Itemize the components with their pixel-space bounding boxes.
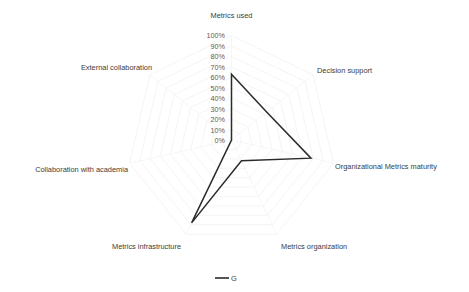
- axis-label-external-collaboration: External collaboration: [81, 63, 152, 72]
- axis-label-metrics-infrastructure: Metrics infrastructure: [112, 242, 181, 251]
- tick-label-80: 80%: [211, 52, 226, 61]
- tick-label-60: 60%: [211, 73, 226, 82]
- tick-label-100: 100%: [207, 31, 226, 40]
- axis-label-decision-support: Decision support: [317, 66, 372, 75]
- tick-label-30: 30%: [211, 105, 226, 114]
- radar-chart-canvas: 100% 90% 80% 70% 60% 50% 40% 30% 20% 10%…: [0, 0, 469, 292]
- legend: G: [215, 274, 237, 283]
- axis-label-metrics-organization: Metrics organization: [281, 242, 347, 251]
- tick-label-10: 10%: [211, 126, 226, 135]
- axis-label-metrics-used: Metrics used: [211, 11, 253, 20]
- tick-label-20: 20%: [211, 115, 226, 124]
- tick-label-90: 90%: [211, 42, 226, 51]
- tick-label-0: 0%: [215, 136, 226, 145]
- axis-label-organizational-metrics-maturity: Organizational Metrics maturity: [335, 162, 437, 171]
- radar-chart: 100% 90% 80% 70% 60% 50% 40% 30% 20% 10%…: [0, 0, 469, 292]
- axis-label-collaboration-with-academia: Collaboration with academia: [35, 165, 129, 174]
- tick-label-70: 70%: [211, 63, 226, 72]
- tick-label-40: 40%: [211, 94, 226, 103]
- legend-label-g: G: [231, 274, 237, 283]
- series-polygon-g: [192, 74, 311, 223]
- spoke-decision-support: [232, 75, 314, 140]
- series-g: [192, 74, 311, 223]
- tick-label-50: 50%: [211, 84, 226, 93]
